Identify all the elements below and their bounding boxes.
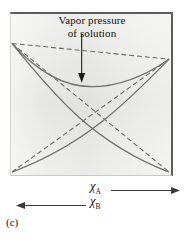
- curve-raoult-ideal-partial-b: [12, 59, 169, 172]
- figure-panel: Vapor pressure of solution χA χB (c): [0, 0, 185, 240]
- annotation-label: Vapor pressure of solution: [44, 14, 140, 39]
- axis-row-chi-b: χB: [6, 195, 182, 211]
- annotation-arrow: [78, 34, 85, 83]
- annotation-line-1: Vapor pressure: [44, 14, 140, 27]
- axis-arrow-left-icon: [14, 201, 86, 210]
- chi-b-subscript: B: [96, 202, 101, 211]
- curve-raoult-ideal-partial-a: [12, 43, 169, 172]
- figure-caption: (c): [6, 216, 18, 228]
- annotation-line-2: of solution: [44, 27, 140, 40]
- curve-total-vapor-pressure-solution: [12, 43, 169, 86]
- curve-raoult-ideal-total: [12, 43, 169, 59]
- axis-label-chi-b: χB: [90, 194, 101, 211]
- axis-arrow-right-icon: [111, 186, 181, 195]
- axis-labels: χA χB: [0, 180, 185, 216]
